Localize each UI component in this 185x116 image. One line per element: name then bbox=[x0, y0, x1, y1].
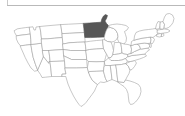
state-CO[interactable] bbox=[49, 50, 65, 62]
state-OH[interactable] bbox=[121, 43, 132, 55]
state-NE[interactable] bbox=[63, 42, 86, 51]
state-MO[interactable] bbox=[86, 49, 107, 62]
state-ID[interactable] bbox=[30, 27, 42, 45]
state-MA[interactable] bbox=[158, 29, 171, 34]
state-RI[interactable] bbox=[162, 34, 165, 37]
state-OR[interactable] bbox=[17, 34, 32, 46]
state-WY[interactable] bbox=[42, 38, 64, 51]
state-MT[interactable] bbox=[40, 25, 62, 39]
state-ME[interactable] bbox=[163, 14, 174, 29]
state-IN[interactable] bbox=[113, 43, 122, 55]
state-FL[interactable] bbox=[118, 80, 141, 105]
state-GA[interactable] bbox=[116, 64, 130, 83]
state-NJ[interactable] bbox=[151, 37, 155, 44]
us-states-map[interactable] bbox=[0, 6, 185, 116]
state-ND[interactable] bbox=[61, 23, 84, 33]
us-map-widget bbox=[0, 0, 185, 116]
